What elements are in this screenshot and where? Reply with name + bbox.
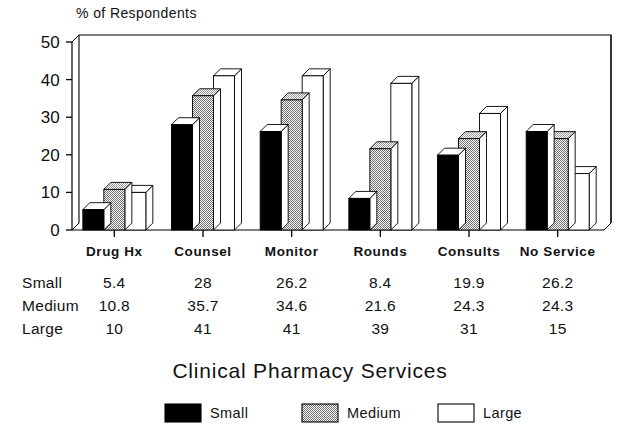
legend-item-medium: Medium — [302, 404, 401, 422]
bar-front-face — [172, 125, 193, 230]
legend-label-small: Small — [210, 405, 248, 421]
table-cell-medium-consults: 24.3 — [453, 297, 484, 314]
y-axis-title: % of Respondents — [76, 5, 197, 21]
table-cell-large-drug-hx: 10 — [105, 320, 123, 337]
y-tick-label-10: 10 — [41, 183, 60, 202]
bar-side-face — [480, 132, 487, 230]
bar-front-face — [526, 131, 547, 230]
table-cell-small-counsel: 28 — [194, 274, 212, 291]
table-row-label-small: Small — [22, 274, 62, 291]
table-cell-medium-counsel: 35.7 — [187, 297, 218, 314]
table-cell-large-counsel: 41 — [194, 320, 212, 337]
table-cell-small-drug-hx: 5.4 — [103, 274, 126, 291]
legend-swatch-large — [438, 404, 474, 422]
category-label-rounds: Rounds — [353, 244, 407, 259]
bar-small-consults — [438, 148, 466, 230]
bar-side-face — [146, 185, 153, 230]
bar-front-face — [438, 155, 459, 230]
table-cell-large-no-service: 15 — [549, 320, 567, 337]
plot-frame-corner-bottom-right — [604, 223, 611, 230]
y-tick-label-50: 50 — [41, 33, 60, 52]
bar-side-face — [193, 118, 200, 230]
table-row-label-medium: Medium — [22, 297, 79, 314]
y-tick-label-20: 20 — [41, 146, 60, 165]
bar-small-drug-hx — [83, 203, 111, 230]
bar-small-no-service — [526, 124, 554, 230]
bar-front-face — [260, 131, 281, 230]
legend-label-large: Large — [483, 405, 522, 421]
bar-side-face — [501, 106, 508, 230]
legend-item-small: Small — [165, 404, 248, 422]
legend-swatch-small — [165, 404, 201, 422]
bar-chart-figure: % of Respondents01020304050Drug HxCounse… — [0, 0, 620, 439]
bar-side-face — [412, 76, 419, 230]
category-label-no-service: No Service — [520, 244, 596, 259]
bar-side-face — [125, 182, 132, 230]
chart-caption: Clinical Pharmacy Services — [172, 359, 447, 382]
bar-side-face — [459, 148, 466, 230]
table-cell-large-consults: 31 — [460, 320, 478, 337]
legend-swatch-medium — [302, 404, 338, 422]
table-cell-medium-no-service: 24.3 — [542, 297, 573, 314]
table-cell-large-monitor: 41 — [283, 320, 301, 337]
y-tick-label-0: 0 — [50, 221, 60, 240]
bar-side-face — [568, 132, 575, 230]
bar-side-face — [235, 69, 242, 230]
category-label-drug-hx: Drug Hx — [86, 244, 143, 259]
y-tick-label-40: 40 — [41, 71, 60, 90]
table-cell-small-rounds: 8.4 — [369, 274, 392, 291]
bar-small-monitor — [260, 124, 288, 230]
legend-item-large: Large — [438, 404, 522, 422]
bar-side-face — [214, 89, 221, 230]
bar-front-face — [349, 198, 370, 230]
bar-side-face — [302, 93, 309, 230]
table-cell-medium-monitor: 34.6 — [276, 297, 307, 314]
category-label-monitor: Monitor — [265, 244, 319, 259]
clinical-pharmacy-services-chart: % of Respondents01020304050Drug HxCounse… — [0, 0, 620, 439]
plot-area — [66, 35, 611, 237]
bar-small-rounds — [349, 191, 377, 230]
table-cell-large-rounds: 39 — [371, 320, 389, 337]
y-tick-label-30: 30 — [41, 108, 60, 127]
table-cell-small-consults: 19.9 — [453, 274, 484, 291]
plot-frame-corner-top-left — [72, 35, 79, 42]
table-cell-small-monitor: 26.2 — [276, 274, 307, 291]
table-cell-medium-rounds: 21.6 — [365, 297, 396, 314]
category-label-consults: Consults — [438, 244, 501, 259]
table-cell-small-no-service: 26.2 — [542, 274, 573, 291]
bar-side-face — [281, 124, 288, 230]
table-cell-medium-drug-hx: 10.8 — [99, 297, 130, 314]
legend-label-medium: Medium — [347, 405, 401, 421]
bar-side-face — [323, 69, 330, 230]
bar-side-face — [589, 167, 596, 230]
plot-frame-corner-bottom-left — [72, 223, 79, 230]
bar-side-face — [547, 124, 554, 230]
bar-small-counsel — [172, 118, 200, 230]
bar-front-face — [83, 210, 104, 230]
table-row-label-large: Large — [22, 320, 63, 337]
bar-side-face — [391, 142, 398, 230]
category-label-counsel: Counsel — [174, 244, 231, 259]
